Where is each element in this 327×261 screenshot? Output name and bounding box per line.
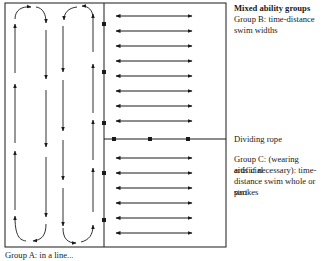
group-b-heading: Mixed ability groups <box>234 3 310 14</box>
group-a-caption-partial: Group A: in a line... <box>5 250 74 261</box>
group-b-description-line1: Group B: time-distance <box>234 14 315 25</box>
pool-outline <box>5 3 226 247</box>
group-c-description-line4: strokes <box>234 187 258 198</box>
group-c-description-line2: aids if necessary): time- <box>234 165 316 176</box>
group-a-circuit-arrows <box>15 6 93 243</box>
group-b-width-arrows <box>116 16 192 121</box>
group-b-description-line2: swim widths <box>234 25 278 36</box>
group-c-width-arrows <box>116 158 192 233</box>
dividing-rope-label: Dividing rope <box>234 134 282 145</box>
